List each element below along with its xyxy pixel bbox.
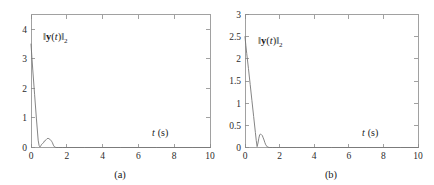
figure-container: 0 1 2 3 4 0 2 4 6 8 10 ‖y(t)‖2 t(s) (a) — [0, 0, 434, 185]
plot-b-svg: 0 0.5 1 1.5 2 2.5 3 0 2 4 6 8 10 ‖y(t)‖2… — [217, 0, 434, 185]
plot-a-xtick-6: 6 — [136, 151, 141, 161]
plot-b-xtick-10: 10 — [413, 151, 423, 161]
plot-a-xlabel-ital-t: t — [152, 127, 155, 138]
plot-b-ytick-3: 3 — [236, 10, 241, 20]
plot-b-xtick-4: 4 — [312, 151, 317, 161]
plot-a-y-axis-label: ‖y(t)‖2 — [43, 31, 68, 45]
plot-a-xlabel-unit: (s) — [158, 127, 169, 139]
plot-b-xtick-0: 0 — [243, 151, 248, 161]
plot-a-x-axis-label: t(s) — [152, 127, 168, 139]
plot-a-ytick-2: 2 — [22, 84, 27, 94]
plot-b-xlabel-unit: (s) — [368, 127, 379, 139]
plot-a-ytick-0: 0 — [22, 143, 27, 153]
plot-b-xtick-6: 6 — [346, 151, 351, 161]
plot-b-ylabel-subscript: 2 — [279, 41, 283, 49]
plot-b-ytick-0: 0 — [236, 143, 241, 153]
plot-b-xtick-2: 2 — [277, 151, 282, 161]
plot-b-ytick-0.5: 0.5 — [229, 121, 241, 131]
plot-b-y-axis-label: ‖y(t)‖2 — [258, 35, 283, 49]
plot-a-ytick-3: 3 — [22, 54, 27, 64]
plot-a-curve — [31, 44, 210, 147]
plot-b-xtick-8: 8 — [381, 151, 386, 161]
plot-a-ylabel-subscript: 2 — [64, 37, 68, 45]
plot-a-xtick-8: 8 — [172, 151, 177, 161]
plot-a-y-ticks — [31, 29, 210, 147]
plot-panel-b: 0 0.5 1 1.5 2 2.5 3 0 2 4 6 8 10 ‖y(t)‖2… — [217, 0, 434, 185]
plot-b-x-axis-label: t(s) — [362, 127, 378, 139]
plot-panel-a: 0 1 2 3 4 0 2 4 6 8 10 ‖y(t)‖2 t(s) (a) — [0, 0, 217, 185]
plot-a-xtick-2: 2 — [64, 151, 69, 161]
plot-a-xtick-0: 0 — [29, 151, 34, 161]
plot-b-ytick-1: 1 — [236, 99, 241, 109]
plot-b-ytick-2: 2 — [236, 54, 241, 64]
plot-a-ytick-4: 4 — [22, 25, 27, 35]
plot-a-xtick-4: 4 — [100, 151, 105, 161]
plot-a-ytick-1: 1 — [22, 113, 27, 123]
plot-b-ytick-1.5: 1.5 — [229, 76, 241, 86]
plot-b-caption: (b) — [325, 169, 338, 181]
plot-b-curve — [245, 37, 418, 148]
plot-a-svg: 0 1 2 3 4 0 2 4 6 8 10 ‖y(t)‖2 t(s) (a) — [0, 0, 217, 185]
plot-a-caption: (a) — [114, 169, 126, 181]
plot-b-ytick-2.5: 2.5 — [229, 32, 241, 42]
plot-b-xlabel-ital-t: t — [362, 127, 365, 138]
plot-a-xtick-10: 10 — [205, 151, 215, 161]
